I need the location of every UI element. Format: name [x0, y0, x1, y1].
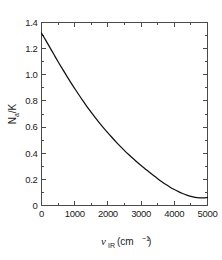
y-axis-title-text: Na/K: [7, 103, 20, 124]
x-axis-title-subscript: IR: [108, 242, 115, 249]
data-curve-na-k: [42, 33, 208, 198]
x-tick-label: 0: [39, 208, 44, 219]
x-tick-label: 5000: [198, 208, 218, 219]
y-tick-label: 0: [33, 200, 38, 211]
y-axis-title-denominator: K: [7, 103, 18, 110]
y-axis-title: Na/K: [7, 103, 20, 124]
x-axis-title-units-open: (cm: [117, 236, 134, 247]
plot-frame: [42, 23, 208, 206]
chart-svg: 010002000300040005000 00.20.40.60.81.01.…: [0, 0, 222, 260]
x-axis-title: ν IR (cm −1 ): [101, 235, 151, 249]
x-axis-tick-labels: 010002000300040005000: [39, 208, 217, 219]
x-tick-label: 4000: [164, 208, 184, 219]
axis-ticks: [42, 23, 208, 206]
x-axis-title-symbol: ν: [101, 235, 106, 247]
chart-figure: 010002000300040005000 00.20.40.60.81.01.…: [0, 0, 222, 260]
y-tick-label: 0.6: [25, 121, 37, 132]
y-tick-label: 1.2: [25, 43, 37, 54]
y-tick-label: 1.0: [25, 69, 37, 80]
y-tick-label: 0.4: [25, 148, 37, 159]
x-tick-label: 1000: [65, 208, 85, 219]
x-tick-label: 2000: [98, 208, 118, 219]
y-axis-title-symbol: N: [7, 117, 18, 124]
y-axis-tick-labels: 00.20.40.60.81.01.21.4: [25, 17, 37, 211]
x-tick-label: 3000: [131, 208, 151, 219]
y-tick-label: 1.4: [25, 17, 37, 28]
y-tick-label: 0.2: [25, 174, 37, 185]
y-tick-label: 0.8: [25, 95, 37, 106]
x-axis-title-units-close: ): [148, 236, 151, 247]
